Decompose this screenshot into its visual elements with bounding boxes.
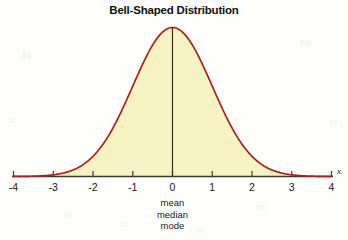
x-axis-tick-label: 2 xyxy=(237,181,267,193)
x-axis-tick-label: 3 xyxy=(277,181,307,193)
x-axis-tick-label: -1 xyxy=(118,181,148,193)
annotation-mode: mode xyxy=(0,220,347,232)
x-axis-tick-label: 4 xyxy=(317,181,347,193)
x-axis-tick-label: -2 xyxy=(78,181,108,193)
annotation-mean: mean xyxy=(0,197,347,209)
chart-title: Bell-Shaped Distribution xyxy=(0,4,348,16)
center-annotation-block: mean median mode xyxy=(0,197,347,232)
x-axis-tick-label: -3 xyxy=(38,181,68,193)
x-axis-tick-label: -4 xyxy=(0,181,29,193)
bell-curve-figure: Bell-Shaped Distribution -4-3-2-101234 x… xyxy=(0,0,348,240)
x-axis-tick-label: 0 xyxy=(158,181,188,193)
annotation-median: median xyxy=(0,209,347,221)
x-axis-variable-label: x xyxy=(337,166,341,176)
x-axis-tick-label: 1 xyxy=(197,181,227,193)
